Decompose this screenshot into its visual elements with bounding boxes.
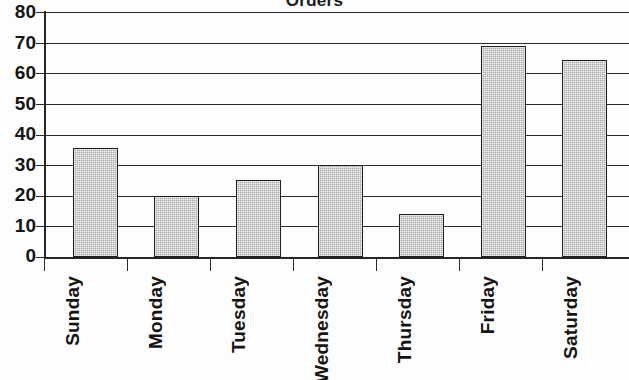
x-axis-tick-3 xyxy=(293,257,294,271)
y-axis-label-50: 50 xyxy=(0,94,36,113)
y-axis-label-70: 70 xyxy=(0,33,36,52)
x-axis-label-wednesday: Wednesday xyxy=(312,276,331,380)
gridline-40 xyxy=(44,135,629,136)
gridline-80 xyxy=(44,12,629,13)
x-axis-label-saturday: Saturday xyxy=(561,276,580,359)
y-axis-labels: 80 70 60 50 40 30 20 10 0 xyxy=(0,0,38,380)
x-axis-tick-4 xyxy=(376,257,377,271)
y-axis-label-30: 30 xyxy=(0,155,36,174)
bar-monday xyxy=(154,196,199,257)
y-axis-label-0: 0 xyxy=(0,246,36,265)
bar-friday xyxy=(481,46,526,257)
y-axis-label-80: 80 xyxy=(0,2,36,21)
bar-thursday xyxy=(399,214,444,257)
x-axis-tick-0 xyxy=(44,257,45,271)
x-axis-label-friday: Friday xyxy=(478,276,497,334)
x-axis-label-tuesday: Tuesday xyxy=(229,276,248,353)
x-axis-tick-5 xyxy=(459,257,460,271)
gridline-70 xyxy=(44,43,629,44)
x-axis-label-thursday: Thursday xyxy=(395,276,414,363)
x-axis-label-sunday: Sunday xyxy=(63,276,82,346)
y-axis-label-40: 40 xyxy=(0,124,36,143)
y-axis-line xyxy=(44,11,46,259)
x-axis-tick-2 xyxy=(210,257,211,271)
gridline-50 xyxy=(44,104,629,105)
plot-area xyxy=(44,12,629,257)
x-axis-tick-1 xyxy=(127,257,128,271)
bar-tuesday xyxy=(236,180,281,257)
y-axis-label-60: 60 xyxy=(0,63,36,82)
x-axis-tick-6 xyxy=(542,257,543,271)
chart-title: Orders xyxy=(0,0,629,11)
y-axis-label-10: 10 xyxy=(0,216,36,235)
gridline-60 xyxy=(44,73,629,74)
bar-saturday xyxy=(562,60,607,258)
bar-chart-figure: Orders 80 70 60 50 40 30 20 10 0 xyxy=(0,0,629,380)
bar-sunday xyxy=(73,148,118,257)
x-axis-label-monday: Monday xyxy=(146,276,165,349)
bar-wednesday xyxy=(318,165,363,257)
y-axis-label-20: 20 xyxy=(0,185,36,204)
